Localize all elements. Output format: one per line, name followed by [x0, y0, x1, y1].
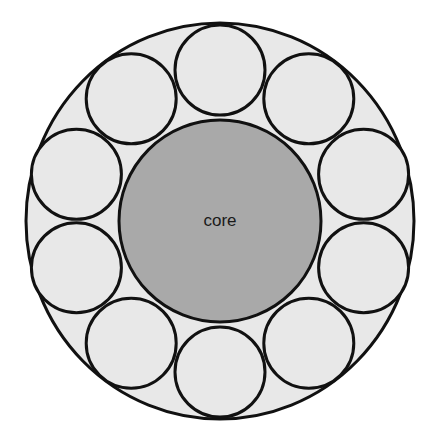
strand-circle	[175, 25, 265, 115]
strand-circle	[264, 298, 354, 388]
strand-circle	[86, 298, 176, 388]
strand-circle	[86, 54, 176, 144]
strand-circle	[319, 129, 409, 219]
strand-circle	[319, 223, 409, 313]
strand-circle	[31, 129, 121, 219]
core-label: core	[203, 211, 236, 230]
strand-circle	[264, 54, 354, 144]
cable-cross-section-diagram: core	[0, 0, 441, 447]
strand-circle	[31, 223, 121, 313]
strand-circle	[175, 327, 265, 417]
